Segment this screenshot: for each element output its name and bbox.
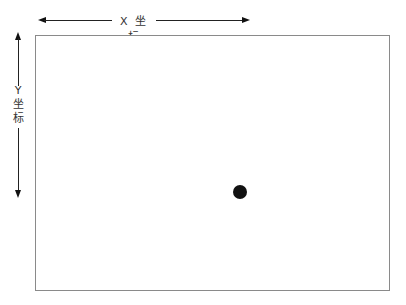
arrow-down-icon: [15, 190, 21, 198]
coordinate-canvas[interactable]: [35, 35, 390, 291]
y-axis-arrow: Y 坐 标: [12, 32, 24, 198]
arrow-right-icon: [242, 17, 250, 23]
x-axis-line-left: [44, 20, 112, 21]
y-axis-label: Y 坐 标: [10, 84, 26, 126]
x-axis-arrow: X 坐 标: [38, 14, 250, 26]
point-marker[interactable]: [233, 185, 247, 199]
y-axis-line-bottom: [18, 128, 19, 190]
y-axis-line-top: [18, 38, 19, 86]
y-axis-label-line: Y: [10, 84, 26, 98]
x-axis-line-right: [156, 20, 242, 21]
y-axis-label-line: 坐: [10, 98, 26, 112]
y-axis-label-line: 标: [10, 112, 26, 126]
